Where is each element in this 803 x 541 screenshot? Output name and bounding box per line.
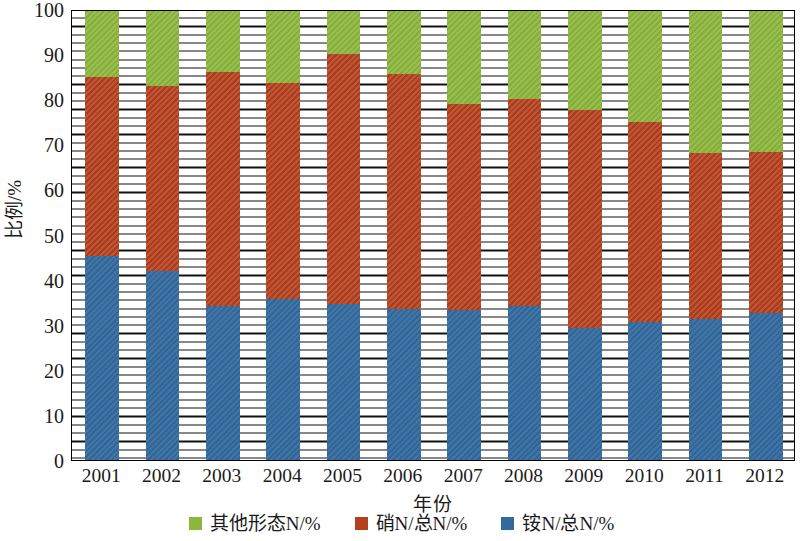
bar-2011 [689, 10, 723, 460]
bar-2003 [206, 10, 240, 460]
bar-segment-ammonium [568, 328, 602, 460]
y-axis-tick-label: 40 [2, 271, 64, 291]
bar-2006 [387, 10, 421, 460]
legend-item: 其他形态N/% [189, 513, 321, 534]
y-axis-tick-label: 100 [2, 0, 64, 20]
bar-segment-ammonium [689, 319, 723, 460]
bar-segment-nitrate [266, 83, 300, 299]
y-axis-tick-label: 30 [2, 316, 64, 336]
y-axis-tick-label: 20 [2, 361, 64, 381]
bar-segment-nitrate [689, 153, 723, 319]
plot-area [71, 10, 795, 461]
bar-2007 [447, 10, 481, 460]
bar-segment-nitrate [749, 152, 783, 313]
x-axis-tick-label: 2002 [142, 464, 181, 488]
x-axis-tick-label: 2011 [685, 464, 723, 488]
legend-label: 铵N/总N/% [522, 513, 614, 534]
x-axis-tick-label: 2001 [82, 464, 121, 488]
bar-segment-ammonium [327, 304, 361, 460]
y-axis-tick-labels: 0102030405060708090100 [0, 0, 64, 541]
bar-2004 [266, 10, 300, 460]
bar-segment-ammonium [387, 309, 421, 460]
bar-2001 [85, 10, 119, 460]
x-axis-tick-label: 2012 [745, 464, 784, 488]
x-axis-tick-label: 2006 [383, 464, 422, 488]
legend-label: 硝N/总N/% [376, 513, 468, 534]
x-axis-tick-label: 2003 [202, 464, 241, 488]
bar-segment-ammonium [749, 313, 783, 460]
bar-segment-nitrate [327, 54, 361, 304]
bar-segment-other [568, 10, 602, 110]
chart-legend: 其他形态N/%硝N/总N/%铵N/总N/% [0, 513, 803, 534]
bar-segment-nitrate [628, 122, 662, 323]
bar-segment-ammonium [146, 271, 180, 460]
bar-segment-ammonium [85, 256, 119, 460]
bar-segment-nitrate [206, 72, 240, 306]
bar-segment-nitrate [85, 77, 119, 256]
bar-segment-nitrate [146, 86, 180, 271]
bar-segment-other [749, 10, 783, 152]
bar-segment-other [146, 10, 180, 86]
legend-swatch-icon [355, 517, 368, 530]
bar-2008 [508, 10, 542, 460]
bar-segment-other [689, 10, 723, 153]
bar-2002 [146, 10, 180, 460]
bar-segment-other [387, 10, 421, 74]
x-axis-tick-label: 2008 [504, 464, 543, 488]
bar-segment-other [327, 10, 361, 54]
bar-segment-other [206, 10, 240, 72]
bar-segment-nitrate [387, 74, 421, 309]
y-axis-tick-label: 10 [2, 406, 64, 426]
bar-segment-other [447, 10, 481, 104]
bar-segment-ammonium [266, 299, 300, 460]
x-axis-title: 年份 [71, 489, 795, 516]
bar-2009 [568, 10, 602, 460]
bar-segment-ammonium [447, 310, 481, 460]
y-axis-tick-label: 70 [2, 135, 64, 155]
bar-segment-other [85, 10, 119, 77]
bar-segment-other [628, 10, 662, 122]
legend-item: 硝N/总N/% [355, 513, 468, 534]
x-axis-tick-label: 2004 [263, 464, 302, 488]
bar-segment-nitrate [447, 104, 481, 310]
y-axis-tick-label: 80 [2, 90, 64, 110]
bar-segment-other [508, 10, 542, 99]
legend-item: 铵N/总N/% [501, 513, 614, 534]
legend-swatch-icon [189, 517, 202, 530]
bar-segment-ammonium [206, 306, 240, 460]
bar-segment-nitrate [508, 99, 542, 306]
bar-segment-ammonium [628, 322, 662, 460]
bar-2010 [628, 10, 662, 460]
bar-group [72, 11, 794, 460]
y-axis-tick-label: 90 [2, 45, 64, 65]
legend-label: 其他形态N/% [210, 513, 321, 534]
bar-2012 [749, 10, 783, 460]
x-axis-tick-label: 2005 [323, 464, 362, 488]
y-axis-tick-label: 60 [2, 180, 64, 200]
y-axis-tick-label: 50 [2, 226, 64, 246]
x-axis-tick-labels: 2001200220032004200520062007200820092010… [71, 464, 795, 492]
bar-segment-other [266, 10, 300, 83]
bar-2005 [327, 10, 361, 460]
x-axis-tick-label: 2007 [444, 464, 483, 488]
bar-segment-ammonium [508, 306, 542, 460]
y-axis-tick-label: 0 [2, 451, 64, 471]
stacked-bar-chart: 比例/% 0102030405060708090100 200120022003… [0, 0, 803, 541]
x-axis-tick-label: 2010 [625, 464, 664, 488]
legend-swatch-icon [501, 517, 514, 530]
x-axis-tick-label: 2009 [564, 464, 603, 488]
bar-segment-nitrate [568, 110, 602, 327]
